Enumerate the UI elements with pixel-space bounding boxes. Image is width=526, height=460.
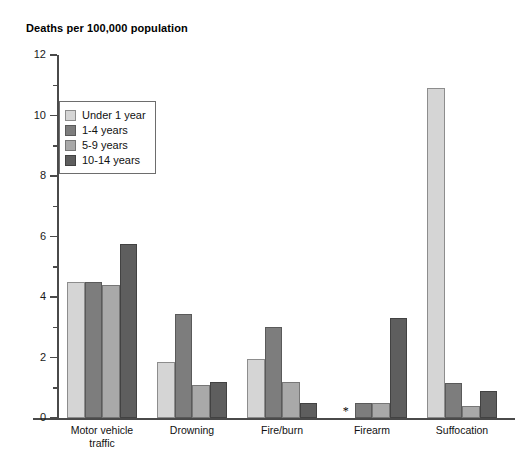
y-axis-tick-label: 2 <box>2 352 46 363</box>
x-axis-category-label: Drowning <box>147 424 237 437</box>
bar[interactable] <box>390 318 408 418</box>
legend-item[interactable]: 5-9 years <box>65 138 146 152</box>
bar[interactable] <box>85 282 103 418</box>
y-axis-tick-label: 6 <box>2 231 46 242</box>
legend-swatch-icon <box>65 125 76 136</box>
legend-item-label: 1-4 years <box>82 124 128 136</box>
y-axis-tick-label: 8 <box>2 170 46 181</box>
bar[interactable] <box>355 403 373 418</box>
y-axis-tick <box>50 296 57 298</box>
bar[interactable] <box>372 403 390 418</box>
bar[interactable] <box>210 382 228 418</box>
bar[interactable] <box>462 406 480 418</box>
bar[interactable] <box>265 327 283 418</box>
legend-item[interactable]: Under 1 year <box>65 108 146 122</box>
bar-group <box>247 55 317 418</box>
y-axis-tick-label: 4 <box>2 291 46 302</box>
legend-item[interactable]: 10-14 years <box>65 153 146 167</box>
bar[interactable] <box>445 383 463 418</box>
legend-item[interactable]: 1-4 years <box>65 123 146 137</box>
y-axis-tick <box>50 357 57 359</box>
bar[interactable] <box>102 285 120 418</box>
chart-legend: Under 1 year1-4 years5-9 years10-14 year… <box>59 101 156 174</box>
x-axis-line <box>33 418 515 420</box>
y-axis-tick-label: 10 <box>2 110 46 121</box>
legend-swatch-icon <box>65 140 76 151</box>
bar-group <box>157 55 227 418</box>
y-axis-tick <box>50 115 57 117</box>
x-axis-category-label: Motor vehicle traffic <box>57 424 147 450</box>
y-axis-tick <box>50 175 57 177</box>
x-axis-category-label: Suffocation <box>417 424 507 437</box>
bar-group <box>427 55 497 418</box>
bar[interactable] <box>120 244 138 418</box>
y-axis-tick-label: 12 <box>2 49 46 60</box>
y-axis-tick <box>50 417 57 419</box>
bar-group: * <box>337 55 407 418</box>
y-axis-tick <box>50 236 57 238</box>
bar[interactable] <box>67 282 85 418</box>
y-axis-tick <box>50 54 57 56</box>
y-axis-tick-label: 0 <box>2 412 46 423</box>
legend-swatch-icon <box>65 155 76 166</box>
legend-swatch-icon <box>65 110 76 121</box>
bar[interactable] <box>427 88 445 418</box>
chart-title: Deaths per 100,000 population <box>26 22 188 34</box>
bar[interactable] <box>175 314 193 418</box>
bar[interactable] <box>157 362 175 418</box>
bar[interactable] <box>282 382 300 418</box>
bar-chart: Deaths per 100,000 population 024681012 … <box>0 0 526 460</box>
bar[interactable] <box>192 385 210 418</box>
bar[interactable] <box>300 403 318 418</box>
bar-asterisk-annotation: * <box>337 406 355 416</box>
x-axis-category-label: Fire/burn <box>237 424 327 437</box>
bar[interactable] <box>480 391 498 418</box>
legend-item-label: 5-9 years <box>82 139 128 151</box>
x-axis-category-label: Firearm <box>327 424 417 437</box>
bar[interactable] <box>247 359 265 418</box>
legend-item-label: Under 1 year <box>82 109 146 121</box>
legend-item-label: 10-14 years <box>82 154 140 166</box>
